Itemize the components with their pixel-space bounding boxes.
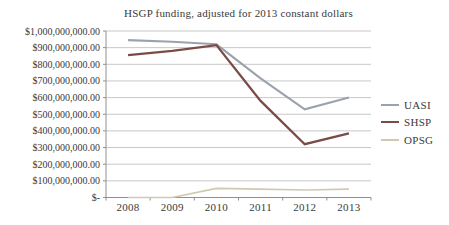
y-axis-tick-label: $900,000,000.00 [33,42,101,53]
x-axis-tick-label: 2012 [293,201,316,213]
series-line-shsp [128,45,349,144]
y-axis-tick-label: $1,000,000,000.00 [25,26,100,37]
y-axis-tick-label: $400,000,000.00 [33,125,101,136]
uasi-line-swatch-icon [381,104,399,106]
line-chart: HSGP funding, adjusted for 2013 constant… [0,0,449,225]
y-axis-tick-label: $700,000,000.00 [33,75,101,86]
legend-label-opsg: OPSG [404,134,433,146]
shsp-line-swatch-icon [381,121,399,123]
x-axis-tick-label: 2010 [205,201,228,213]
y-axis-tick-label: $600,000,000.00 [33,92,101,103]
axes [103,31,371,201]
x-axis-tick-label: 2009 [161,201,184,213]
legend-label-uasi: UASI [404,99,431,111]
x-axis-tick-label: 2011 [249,201,272,213]
series-line-opsg [128,188,349,197]
legend-item-shsp: SHSP [381,114,433,132]
y-axis-tick-label: $500,000,000.00 [33,109,101,120]
y-axis-tick-label: $800,000,000.00 [33,59,101,70]
opsg-line-swatch-icon [381,139,399,141]
legend-label-shsp: SHSP [404,116,432,128]
y-axis-tick-label: $200,000,000.00 [33,159,101,170]
x-axis-labels: 200820092010201120122013 [116,201,360,213]
y-axis-labels: $1,000,000,000.00$900,000,000.00$800,000… [25,26,100,204]
x-axis-tick-label: 2013 [337,201,360,213]
y-axis-tick-label: $100,000,000.00 [33,175,101,186]
legend-item-uasi: UASI [381,96,433,114]
x-axis-tick-label: 2008 [116,201,139,213]
legend-item-opsg: OPSG [381,131,433,149]
legend: UASI SHSP OPSG [381,96,433,149]
y-axis-tick-label: $- [92,192,100,203]
y-axis-tick-label: $300,000,000.00 [33,142,101,153]
